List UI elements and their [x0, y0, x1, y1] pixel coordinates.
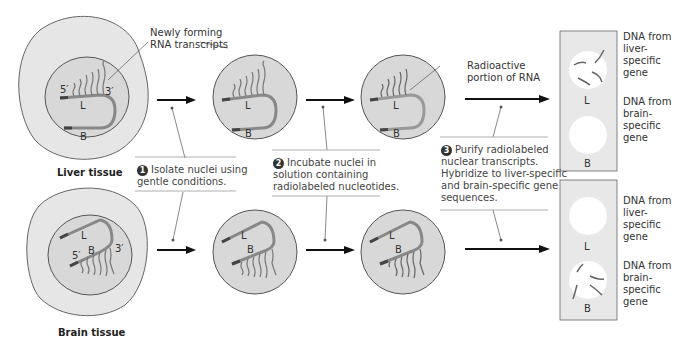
step-1: 1Isolate nuclei using gentle conditions.	[137, 164, 248, 188]
filter-bottom-L: L	[584, 241, 590, 252]
step-number-icon: 3	[441, 145, 452, 156]
step-number-icon: 1	[137, 165, 148, 176]
dna-line: specific	[623, 55, 671, 67]
step-line: gentle conditions.	[137, 176, 248, 188]
dna-line: gene	[623, 132, 671, 144]
label-B-liver-3: B	[393, 128, 400, 139]
brain-nucleus-3	[361, 210, 445, 294]
brain-nucleus-2	[213, 210, 297, 294]
step-line: sequences.	[441, 192, 567, 204]
step-line: and brain-specific gene	[441, 180, 567, 192]
label-line: Radioactive	[467, 60, 540, 72]
label-B-liver-2: B	[245, 128, 252, 139]
dna-label-brain-bottom: DNA from brain- specific gene	[623, 260, 671, 308]
dna-label-liver-bottom: DNA from liver- specific gene	[623, 195, 671, 243]
dna-line: DNA from	[623, 195, 671, 207]
label-B-brain-3: B	[395, 244, 402, 255]
dna-line: brain-	[623, 108, 671, 120]
label-5prime-brain: 5′	[72, 250, 81, 261]
step-line: Isolate nuclei using	[151, 164, 248, 175]
filter-top-L: L	[584, 95, 590, 106]
step-3: 3Purify radiolabeled nuclear transcripts…	[441, 144, 567, 204]
dna-label-liver-top: DNA from liver- specific gene	[623, 31, 671, 79]
step-line: nuclear transcripts.	[441, 156, 567, 168]
step-number-icon: 2	[273, 158, 284, 169]
dna-line: specific	[623, 120, 671, 132]
label-3prime-liver: 3′	[105, 86, 114, 97]
dna-line: DNA from	[623, 260, 671, 272]
filter-top-B: B	[584, 158, 591, 169]
label-L-brain-2: L	[241, 230, 247, 241]
label-B-brain-2: B	[247, 244, 254, 255]
label-brain-tissue: Brain tissue	[58, 327, 125, 338]
label-radioactive: Radioactive portion of RNA	[467, 60, 540, 84]
step-line: Purify radiolabeled	[455, 144, 549, 155]
label-L-liver-2: L	[245, 100, 251, 111]
dna-line: specific	[623, 219, 671, 231]
step-line: radiolabeled nucleotides.	[273, 181, 399, 193]
filter-bottom-B: B	[584, 303, 591, 314]
step-line: Incubate nuclei in	[287, 157, 376, 168]
dna-line: liver-	[623, 207, 671, 219]
dna-line: gene	[623, 67, 671, 79]
label-L-brain-3: L	[389, 230, 395, 241]
label-liver-tissue: Liver tissue	[57, 167, 123, 178]
step-line: solution containing	[273, 169, 399, 181]
label-L-liver-3: L	[393, 100, 399, 111]
dna-label-brain-top: DNA from brain- specific gene	[623, 96, 671, 144]
label-newly-forming: Newly forming RNA transcripts	[150, 27, 228, 51]
label-B-brain: B	[88, 245, 95, 256]
label-line: Newly forming	[150, 27, 228, 39]
dna-line: gene	[623, 296, 671, 308]
label-3prime-brain: 3′	[115, 243, 124, 254]
dna-line: gene	[623, 231, 671, 243]
label-line: portion of RNA	[467, 72, 540, 84]
dna-line: specific	[623, 284, 671, 296]
dna-line: DNA from	[623, 96, 671, 108]
label-B-liver: B	[80, 131, 87, 142]
dna-line: DNA from	[623, 31, 671, 43]
dna-line: liver-	[623, 43, 671, 55]
label-L-brain: L	[81, 230, 87, 241]
step-line: Hybridize to liver-specific	[441, 168, 567, 180]
dna-line: brain-	[623, 272, 671, 284]
label-L-liver: L	[80, 100, 86, 111]
step-2: 2Incubate nuclei in solution containing …	[273, 157, 399, 193]
label-5prime-liver: 5′	[60, 84, 69, 95]
label-line: RNA transcripts	[150, 39, 228, 51]
